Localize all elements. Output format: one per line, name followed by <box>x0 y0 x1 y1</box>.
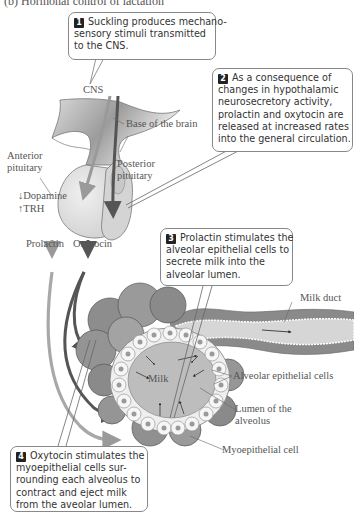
label-lumen-1: Lumen of the <box>235 403 292 415</box>
label-anterior-pituitary-2: pituitary <box>7 162 43 174</box>
callout-4: 4Oxytocin stimulates the myoepithelial c… <box>10 446 148 512</box>
label-oxytocin: Oxytocin <box>73 238 112 250</box>
label-myoepithelial-cell: Myoepithelial cell <box>222 444 299 456</box>
label-dopamine: ↓Dopamine <box>18 190 67 202</box>
label-posterior-pituitary-1: Posterior <box>117 158 155 170</box>
label-prolactin: Prolactin <box>26 238 64 250</box>
callout-1: 1Suckling produces mechano- sensory stim… <box>68 12 216 60</box>
callout-3: 3Prolactin stimulates the alveolar epith… <box>160 228 293 286</box>
step-badge-2: 2 <box>218 74 228 84</box>
label-milk: Milk <box>148 373 168 385</box>
callout-2: 2As a consequence of changes in hypothal… <box>212 68 353 152</box>
label-milk-duct: Milk duct <box>300 292 341 304</box>
step-badge-4: 4 <box>16 452 26 462</box>
label-base-of-brain: Base of the brain <box>126 118 197 130</box>
callout-1-pointer <box>90 58 104 84</box>
label-alveolar-epithelial-cells: Alveolar epithelial cells <box>233 370 333 382</box>
label-posterior-pituitary-2: pituitary <box>117 170 153 182</box>
label-trh: ↑TRH <box>18 203 44 215</box>
step-badge-3: 3 <box>166 234 176 244</box>
myoepithelial-pointer <box>190 436 224 450</box>
alveolar-lumen <box>128 342 216 418</box>
label-cns: CNS <box>83 84 103 96</box>
step-badge-1: 1 <box>74 18 84 28</box>
label-anterior-pituitary-1: Anterior <box>7 150 43 162</box>
label-lumen-2: alveolus <box>235 415 270 427</box>
